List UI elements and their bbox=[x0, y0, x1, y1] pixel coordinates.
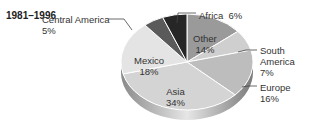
label-south-america: South America 7% bbox=[260, 45, 295, 78]
label-central-america: Central America 5% bbox=[42, 14, 110, 36]
leader-line bbox=[108, 19, 132, 30]
label-mexico: Mexico 18% bbox=[134, 55, 164, 77]
label-other: Other 14% bbox=[193, 33, 217, 55]
label-africa: Africa 6% bbox=[199, 10, 242, 21]
label-asia: Asia 34% bbox=[166, 86, 185, 108]
label-europe: Europe 16% bbox=[260, 82, 291, 104]
